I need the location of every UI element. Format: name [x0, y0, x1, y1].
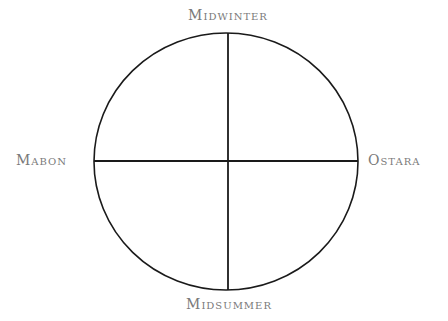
label-midwinter: Midwinter — [0, 6, 448, 24]
label-ostara: Ostara — [368, 151, 420, 169]
label-mabon: Mabon — [16, 151, 67, 169]
label-midsummer: Midsummer — [0, 295, 448, 313]
